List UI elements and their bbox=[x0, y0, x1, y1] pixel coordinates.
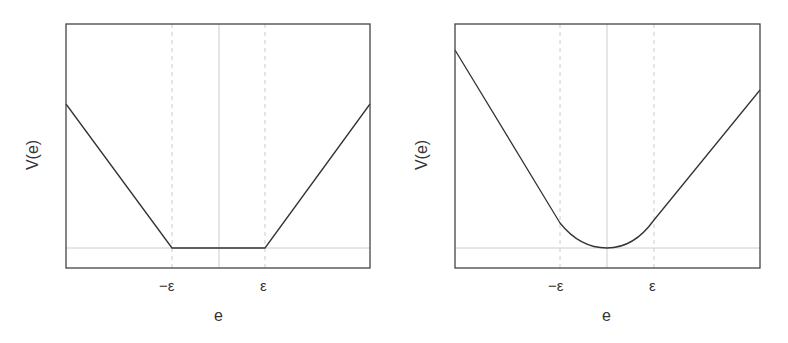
left-x-axis-label: e bbox=[214, 307, 223, 325]
chart-canvas bbox=[0, 0, 788, 343]
right-panel bbox=[455, 24, 760, 268]
left-panel bbox=[66, 24, 370, 268]
left-tick-pos-eps: ε bbox=[260, 277, 267, 294]
left-plot-box bbox=[66, 24, 370, 268]
right-x-axis-label: e bbox=[602, 307, 611, 325]
right-tick-pos-eps: ε bbox=[649, 277, 656, 294]
left-tick-neg-eps: −ε bbox=[159, 277, 174, 294]
left-y-axis-label: V(e) bbox=[24, 140, 42, 170]
right-tick-neg-eps: −ε bbox=[548, 277, 563, 294]
left-curve bbox=[66, 104, 370, 248]
right-y-axis-label: V(e) bbox=[413, 140, 431, 170]
